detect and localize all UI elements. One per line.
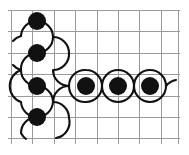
serpentine-arc-diagram <box>0 0 189 155</box>
node-dot <box>141 77 159 95</box>
curve-tail-lower-left <box>13 65 21 70</box>
node-dot <box>28 44 46 62</box>
node-dot <box>28 77 46 95</box>
node-dot <box>77 77 95 95</box>
curve-vertical-serpentine-right <box>53 37 70 138</box>
curve-tail-upper-left <box>13 36 21 41</box>
node-dot-group <box>28 12 159 126</box>
node-dot <box>109 77 127 95</box>
node-dot <box>28 12 46 30</box>
figure-container <box>0 0 189 155</box>
node-dot <box>28 108 46 126</box>
